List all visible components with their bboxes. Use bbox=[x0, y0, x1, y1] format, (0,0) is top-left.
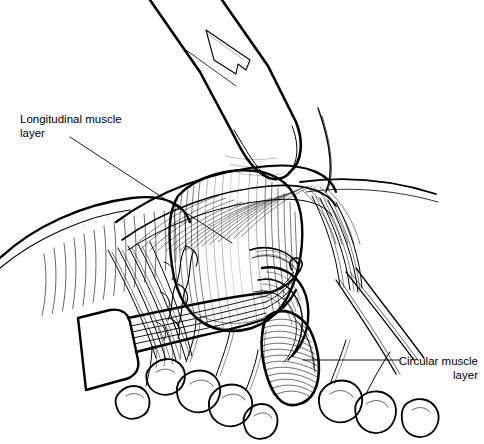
label-longitudinal-muscle-layer: Longitudinal muscle layer bbox=[20, 113, 122, 140]
surgical-illustration-figure: Longitudinal muscle layer Circular muscl… bbox=[0, 0, 484, 444]
label-circular-muscle-layer: Circular muscle layer bbox=[399, 355, 478, 382]
